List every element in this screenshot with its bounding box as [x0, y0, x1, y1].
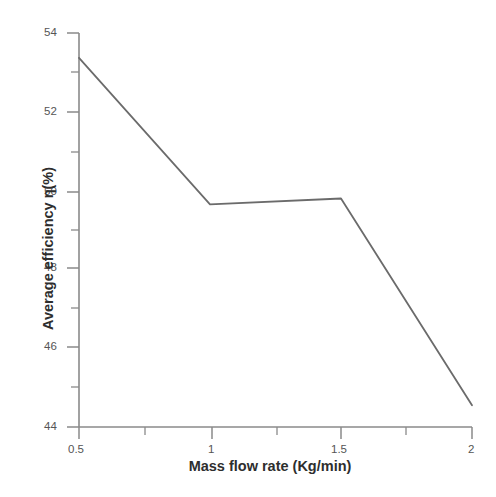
- axis-spines: [79, 33, 472, 427]
- x-axis-major-ticks: [79, 427, 472, 439]
- y-axis-minor-ticks: [71, 72, 79, 387]
- chart-figure: 54 52 50 48 46 44 0.5 1 1.5 2 Average ef…: [0, 0, 496, 497]
- x-tick-label-2: 2: [468, 443, 474, 455]
- y-axis-title: Average efficiency η(%): [40, 167, 56, 330]
- y-tick-label-44: 44: [44, 420, 57, 432]
- x-axis-minor-ticks: [145, 427, 406, 435]
- y-tick-label-46: 46: [44, 340, 57, 352]
- line-chart-canvas: [0, 0, 496, 497]
- x-axis-title: Mass flow rate (Kg/min): [100, 458, 440, 474]
- y-tick-label-52: 52: [44, 105, 57, 117]
- x-tick-label-1_5: 1.5: [331, 443, 347, 455]
- x-tick-label-1: 1: [208, 443, 214, 455]
- y-tick-label-54: 54: [44, 26, 57, 38]
- x-tick-label-0_5: 0.5: [68, 443, 84, 455]
- data-series-line: [79, 58, 472, 406]
